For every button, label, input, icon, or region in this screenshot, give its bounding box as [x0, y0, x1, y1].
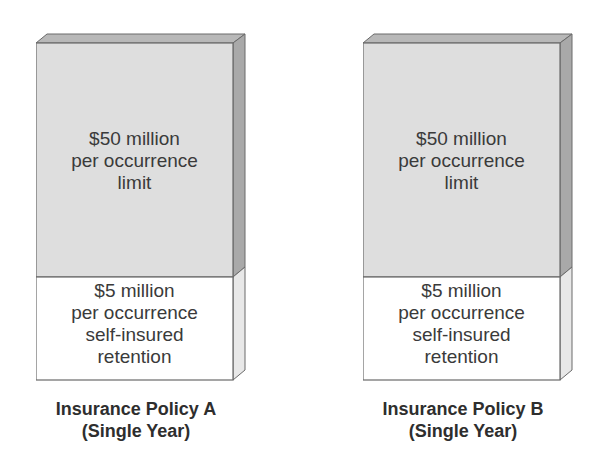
retention-basis: per occurrence [363, 302, 560, 324]
policy-b-layer-stack: $50 million per occurrence limit $5 mill… [363, 0, 599, 390]
policy-b-caption: Insurance Policy B (Single Year) [353, 398, 573, 442]
policy-a-caption: Insurance Policy A (Single Year) [26, 398, 246, 442]
retention-type: self-insured [36, 324, 233, 346]
limit-basis: per occurrence [36, 150, 233, 172]
policy-term: (Single Year) [26, 420, 246, 442]
retention-basis: per occurrence [36, 302, 233, 324]
retention-amount: $5 million [363, 280, 560, 302]
policy-term: (Single Year) [353, 420, 573, 442]
policy-a-retention-label: $5 million per occurrence self-insured r… [36, 280, 233, 368]
policy-b-retention-label: $5 million per occurrence self-insured r… [363, 280, 560, 368]
policy-a-layer-stack: $50 million per occurrence limit $5 mill… [36, 0, 276, 390]
limit-amount: $50 million [363, 128, 560, 150]
policy-a-limit-label: $50 million per occurrence limit [36, 128, 233, 194]
policy-b-diagram: $50 million per occurrence limit $5 mill… [363, 0, 599, 472]
policy-b-limit-label: $50 million per occurrence limit [363, 128, 560, 194]
limit-type: limit [363, 172, 560, 194]
retention-type: self-insured [363, 324, 560, 346]
policy-a-diagram: $50 million per occurrence limit $5 mill… [36, 0, 276, 472]
limit-basis: per occurrence [363, 150, 560, 172]
retention-type-cont: retention [36, 346, 233, 368]
policy-title: Insurance Policy A [26, 398, 246, 420]
limit-type: limit [36, 172, 233, 194]
retention-type-cont: retention [363, 346, 560, 368]
limit-amount: $50 million [36, 128, 233, 150]
retention-amount: $5 million [36, 280, 233, 302]
policy-title: Insurance Policy B [353, 398, 573, 420]
